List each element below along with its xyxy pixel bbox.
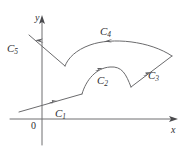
curve-label-c3-subscript: 3 — [155, 74, 159, 83]
curve-c4-path — [65, 41, 172, 66]
curve-label-c2: C2 — [97, 75, 108, 86]
curve-c1-path — [19, 94, 82, 112]
origin-label: 0 — [31, 121, 36, 131]
curve-label-c1-subscript: 1 — [62, 112, 66, 121]
y-axis-label: y — [35, 13, 39, 23]
curve-label-c3: C3 — [148, 70, 159, 81]
curve-label-c5-subscript: 5 — [14, 47, 18, 56]
diagram-svg — [0, 0, 190, 153]
curve-label-c4: C4 — [100, 26, 111, 37]
figure-canvas: y x 0 C1 C2 C3 C4 C5 — [0, 0, 190, 153]
curve-label-c2-subscript: 2 — [104, 79, 108, 88]
x-axis-label: x — [171, 125, 175, 135]
curve-label-c5: C5 — [7, 43, 18, 54]
curve-label-c1: C1 — [55, 108, 66, 119]
curve-label-c4-subscript: 4 — [107, 30, 111, 39]
curve-c5-path — [29, 35, 65, 66]
curve-c1-group — [19, 94, 82, 112]
curve-c5-group — [29, 35, 65, 66]
curve-c4-group — [65, 39, 172, 66]
